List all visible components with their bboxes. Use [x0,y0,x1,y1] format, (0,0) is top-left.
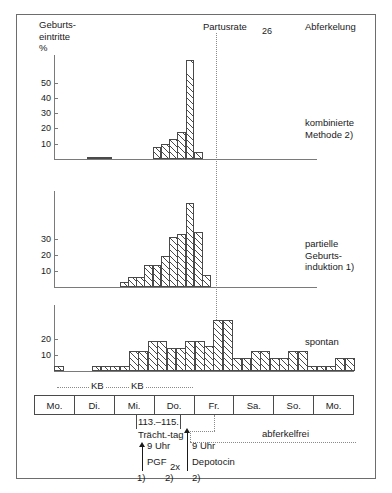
day-cell-sa: Sa. [234,396,274,414]
panel-partielle: 30 20 10 partielle Geburts- induktion 1) [17,183,377,289]
panel2-ticklabel-20: 20 [31,250,51,260]
panel3-side-label: spontan [305,336,339,348]
depotocin-label: Depotocin [192,456,235,468]
histogram-bar [194,152,203,159]
day-cell-mi: Mi. [115,396,155,414]
pgf-arrow-stem [142,447,143,471]
panel-kombinierte: 50 40 30 20 10 kombinierte Methode 2) [17,49,377,161]
pgf-label: PGF [147,456,167,468]
day-cell-do: Do. [155,396,195,414]
panel2-ticklabel-10: 10 [31,266,51,276]
panel2-bars [54,183,317,288]
panel3-ticklabel-10: 10 [31,350,51,360]
day-cell-fr: Fr. [195,396,235,414]
footnote-marker-2a: 2) [165,472,173,484]
histogram-bar [103,157,112,159]
abferkelfrei-label: abferkelfrei [259,428,312,440]
histogram-bar [54,366,64,371]
panel1-ticklabel-20: 20 [31,123,51,133]
kb-label-2: KB [129,380,146,391]
abferkelfrei-drop-line [214,415,215,431]
histogram-bar [345,358,355,371]
depotocin-arrow-stem [187,433,188,471]
footnote-marker-2b: 2) [192,472,200,484]
day-cell-mo: Mo. [314,396,353,414]
kb-label-1: KB [89,380,106,391]
panel3-ticklabel-20: 20 [31,334,51,344]
partusrate-label: Partusrate [203,21,247,32]
panel1-side-label: kombinierte Methode 2) [305,117,354,140]
histogram-bar [202,275,211,287]
partusrate-value: 26 [262,26,272,36]
traechtigkeit-day-range: 113.–115. [138,416,179,428]
do-cell-divider-left [136,415,137,429]
panel1-ticklabel-40: 40 [31,93,51,103]
panel2-side-label: partielle Geburts- induktion 1) [305,238,354,273]
day-cell-so: So. [274,396,314,414]
panel1-bars [54,49,317,160]
abferkelfrei-step-line [190,431,215,432]
figure-frame: Geburts- eintritte % Partusrate 26 Abfer… [16,14,376,479]
panel-spontan: 20 10 spontan [17,303,377,377]
histogram-bar [186,60,195,159]
panel1-ticklabel-30: 30 [31,108,51,118]
pgf-time: 9 Uhr [147,440,170,452]
do-cell-divider-right [180,415,181,429]
day-cell-mo: Mo. [35,396,75,414]
abferkelfrei-baseline [190,442,356,443]
day-table: Mo.Di.Mi.Do.Fr.Sa.So.Mo. [34,395,354,415]
kb-dotline-left [57,387,193,388]
panel2-ticklabel-30: 30 [31,234,51,244]
abferkelfrei-left-drop [190,431,191,442]
panel1-ticklabel-10: 10 [31,139,51,149]
abferkelung-label: Abferkelung [305,21,356,32]
footnote-marker-1: 1) [137,472,145,484]
panel1-ticklabel-50: 50 [31,78,51,88]
day-cell-di: Di. [75,396,115,414]
